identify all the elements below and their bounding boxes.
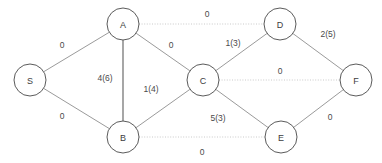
edge-label-s-b: 0 [60,111,65,121]
node-label-f: F [353,76,359,86]
edge-label-s-a: 0 [60,40,65,50]
node-a[interactable]: A [107,8,139,40]
edge-label-a-b: 4(6) [97,73,112,83]
node-d[interactable]: D [264,8,296,40]
edge-label-a-c: 0 [169,40,174,50]
edge-s-a [44,32,110,71]
node-f[interactable]: F [340,64,372,96]
node-b[interactable]: B [107,121,139,153]
node-e[interactable]: E [265,121,297,153]
edge-label-d-f: 2(5) [320,29,335,39]
edge-a-c [136,33,190,71]
node-label-d: D [277,20,284,30]
node-label-c: C [200,76,207,86]
node-layer: SABCDEF [14,8,372,153]
edge-label-b-e: 0 [200,147,205,157]
node-label-b: B [120,133,126,143]
edge-label-c-e: 5(3) [210,113,225,123]
edge-d-f [293,33,343,70]
edge-c-d [216,33,267,70]
edge-label-c-f: 0 [278,66,283,76]
diagram-canvas: SABCDEF 00004(6)1(4)1(3)02(5)5(3)00 [0,0,382,163]
node-label-s: S [27,76,33,86]
node-label-e: E [278,133,284,143]
edge-b-c [136,89,190,127]
node-label-a: A [120,20,126,30]
node-c[interactable]: C [187,64,219,96]
edge-label-b-c: 1(4) [143,84,158,94]
edge-label-a-d: 0 [205,9,210,19]
edge-label-e-f: 0 [328,112,333,122]
graph-svg: SABCDEF 00004(6)1(4)1(3)02(5)5(3)00 [0,0,382,163]
edge-e-f [294,90,344,128]
edge-label-c-d: 1(3) [225,38,240,48]
node-s[interactable]: S [14,64,46,96]
edge-s-b [44,88,110,128]
